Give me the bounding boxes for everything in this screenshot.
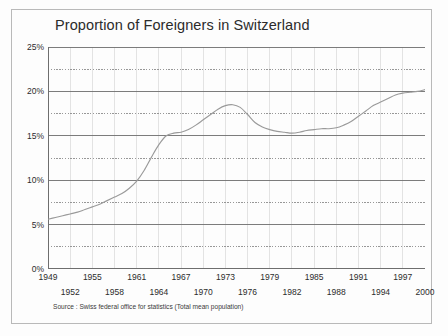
x-axis-tick-label: 1976 xyxy=(238,287,257,297)
x-axis-tick-label: 1949 xyxy=(39,272,58,282)
y-axis-tick-label: 25% xyxy=(10,42,44,52)
major-horizontal-gridlines xyxy=(48,47,425,225)
x-axis-tick-label: 1958 xyxy=(105,287,124,297)
x-axis-tick-label: 1952 xyxy=(61,287,80,297)
x-axis-tick-label: 1964 xyxy=(149,287,168,297)
minor-horizontal-gridlines xyxy=(48,69,425,247)
x-axis-tick-label: 1967 xyxy=(172,272,191,282)
y-axis-tick-label: 15% xyxy=(10,131,44,141)
x-axis-tick-label: 1973 xyxy=(216,272,235,282)
source-note: Source : Swiss federal office for statis… xyxy=(53,303,243,310)
x-axis-tick-label: 2000 xyxy=(416,287,435,297)
x-axis-tick-label: 1982 xyxy=(282,287,301,297)
chart-plot-svg xyxy=(48,47,425,269)
x-axis-tick-label: 1979 xyxy=(260,272,279,282)
plot-area xyxy=(48,47,425,269)
x-axis-tick-label: 1955 xyxy=(83,272,102,282)
x-axis-tick-label: 1991 xyxy=(349,272,368,282)
y-axis-tick-label: 20% xyxy=(10,86,44,96)
y-axis-tick-label: 5% xyxy=(10,220,44,230)
x-axis-tick-label: 1997 xyxy=(393,272,412,282)
data-series-line xyxy=(48,90,425,220)
chart-title: Proportion of Foreigners in Switzerland xyxy=(55,17,310,33)
x-axis-tick-label: 1994 xyxy=(371,287,390,297)
y-axis-tick-label: 10% xyxy=(10,175,44,185)
chart-screenshot: Proportion of Foreigners in Switzerland … xyxy=(0,0,448,336)
x-axis-tick-label: 1988 xyxy=(327,287,346,297)
x-axis-tick-label: 1961 xyxy=(127,272,146,282)
x-axis-tick-labels: 1949195519611967197319791985199119971952… xyxy=(48,269,425,301)
x-axis-tick-label: 1985 xyxy=(305,272,324,282)
x-axis-tick-label: 1970 xyxy=(194,287,213,297)
y-axis-tick-labels: 0%5%10%15%20%25% xyxy=(8,47,44,269)
